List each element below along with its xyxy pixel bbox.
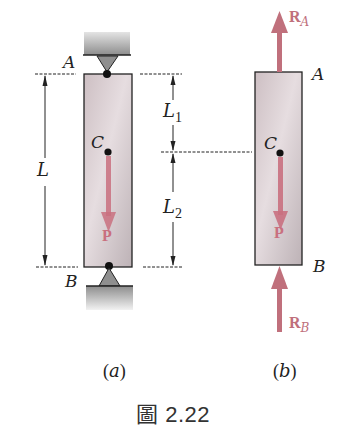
label-l1: L1	[163, 100, 182, 121]
label-l1-sub: 1	[175, 110, 182, 125]
subfigure-a	[35, 32, 252, 310]
label-ra: RA	[289, 8, 309, 26]
label-l2-main: L	[163, 196, 175, 217]
label-l1-main: L	[163, 100, 175, 121]
reaction-arrow-rb	[271, 266, 288, 332]
label-rb-main: R	[289, 314, 301, 331]
figure-caption: 圖 2.22	[0, 396, 346, 428]
label-l2: L2	[163, 196, 182, 217]
subfigure-b	[255, 11, 302, 332]
dimension-l1-l2	[140, 74, 252, 267]
subfigure-b-label: (b)	[273, 360, 297, 382]
subfigure-a-letter: a	[109, 360, 120, 381]
subfigure-b-letter: b	[279, 360, 291, 381]
bottom-support	[86, 262, 133, 310]
figure-2-22: A B C L L1 L2 P A B C P RA RB (a) (b) 圖 …	[0, 0, 346, 441]
label-rb: RB	[289, 314, 309, 332]
label-b-left: B	[65, 271, 78, 291]
label-c-a: C	[91, 132, 104, 152]
label-ra-main: R	[289, 8, 301, 25]
subfigure-a-label: (a)	[103, 360, 126, 382]
label-ra-sub: A	[301, 15, 310, 29]
label-b-right: B	[313, 256, 326, 276]
label-l-total: L	[37, 159, 49, 180]
label-a-right: A	[312, 64, 324, 84]
label-l2-sub: 2	[175, 206, 182, 221]
label-rb-sub: B	[301, 321, 310, 335]
label-a-left: A	[63, 52, 75, 72]
centroid-c-b	[276, 149, 283, 156]
top-support	[83, 32, 131, 72]
pin-a-top	[103, 70, 111, 78]
label-p-b: P	[274, 224, 284, 242]
reaction-arrow-ra	[271, 11, 288, 72]
centroid-c-a	[104, 148, 111, 155]
label-p-a: P	[102, 227, 112, 245]
label-c-b: C	[264, 133, 277, 153]
